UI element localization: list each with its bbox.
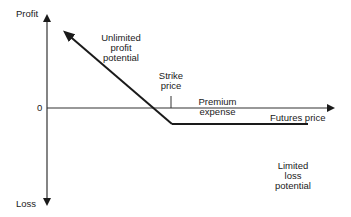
annotation-line: price xyxy=(151,81,191,91)
x-axis-label-futures-price: Futures price xyxy=(270,113,325,123)
y-axis-label-loss: Loss xyxy=(16,199,36,209)
y-axis-zero-label: 0 xyxy=(37,103,42,113)
annotation-line: expense xyxy=(190,107,245,117)
annotation-line: potential xyxy=(268,181,318,191)
annotation-line: potential xyxy=(96,53,146,63)
y-axis-label-profit: Profit xyxy=(16,9,38,19)
annotation-limited-loss: Limited loss potential xyxy=(268,161,318,191)
annotation-unlimited-profit: Unlimited profit potential xyxy=(96,33,146,63)
annotation-premium-expense: Premium expense xyxy=(190,97,245,117)
annotation-strike-price: Strike price xyxy=(151,71,191,91)
